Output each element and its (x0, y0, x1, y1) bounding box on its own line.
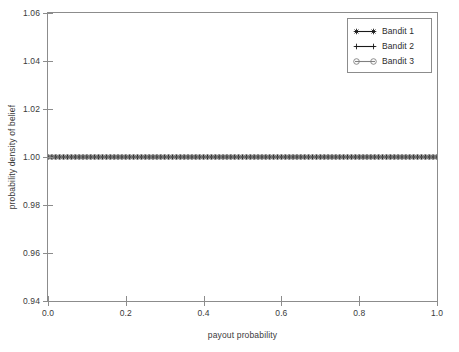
legend-label: Bandit 3 (382, 56, 414, 66)
y-tick-mark-inner (48, 205, 53, 206)
y-tick-label: 0.96 (23, 248, 40, 258)
x-tick-mark-inner (359, 296, 360, 301)
x-tick-label: 0.2 (120, 308, 132, 318)
y-axis-title: probability density of belief (6, 12, 18, 302)
y-tick-label: 1.04 (23, 56, 40, 66)
x-tick-mark-inner (204, 296, 205, 301)
y-tick-mark-inner (48, 61, 53, 62)
y-axis-title-text: probability density of belief (7, 105, 17, 210)
x-tick-mark (126, 301, 127, 306)
data-series (48, 155, 437, 160)
star-marker-icon (352, 24, 378, 37)
x-axis-title: payout probability (47, 330, 438, 340)
y-tick-label: 1.00 (23, 152, 40, 162)
legend-item-3[interactable]: Bandit 3 (352, 53, 426, 68)
y-tick-label: 0.94 (23, 296, 40, 306)
y-tick-label: 0.98 (23, 200, 40, 210)
circle-marker-icon (352, 54, 378, 67)
x-tick-label: 0.0 (42, 308, 54, 318)
x-tick-mark-inner (48, 296, 49, 301)
x-tick-mark (281, 301, 282, 306)
data-series (48, 155, 437, 160)
data-series (48, 155, 437, 160)
x-tick-mark (437, 301, 438, 306)
y-tick-mark-inner (48, 253, 53, 254)
plus-marker-icon (352, 39, 378, 52)
y-tick-mark-inner (48, 109, 53, 110)
x-tick-mark-inner (281, 296, 282, 301)
x-tick-mark (48, 301, 49, 306)
y-tick-label: 1.02 (23, 104, 40, 114)
x-tick-label: 0.8 (353, 308, 365, 318)
x-tick-label: 1.0 (431, 308, 443, 318)
y-tick-label: 1.06 (23, 8, 40, 18)
legend-label: Bandit 2 (382, 41, 414, 51)
legend-label: Bandit 1 (382, 26, 414, 36)
x-tick-mark-inner (126, 296, 127, 301)
x-tick-mark (359, 301, 360, 306)
x-tick-label: 0.4 (198, 308, 210, 318)
x-tick-label: 0.6 (275, 308, 287, 318)
x-tick-mark-inner (437, 296, 438, 301)
chart-figure: probability density of belief 0.940.960.… (0, 0, 459, 352)
legend-item-2[interactable]: Bandit 2 (352, 38, 426, 53)
chart-legend: Bandit 1Bandit 2Bandit 3 (347, 18, 432, 73)
y-tick-mark-inner (48, 13, 53, 14)
y-tick-mark-inner (48, 157, 53, 158)
x-tick-mark (204, 301, 205, 306)
legend-item-1[interactable]: Bandit 1 (352, 23, 426, 38)
